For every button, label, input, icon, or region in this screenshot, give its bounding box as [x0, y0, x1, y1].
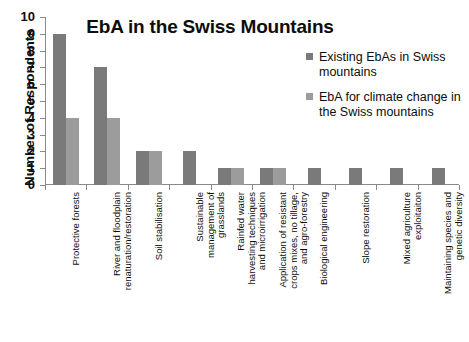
- y-axis-tick-label: 8: [28, 43, 35, 59]
- x-axis-category-label: Maintaining species and genetic diversit…: [443, 192, 464, 342]
- bar-series1: [218, 168, 231, 185]
- x-axis-category-label: Protective forests: [71, 192, 82, 342]
- bar-series1: [308, 168, 321, 185]
- y-axis-tick-label: 7: [28, 59, 35, 75]
- legend-label: Existing EbAs in Swiss mountains: [319, 50, 445, 79]
- bar-series1: [260, 168, 273, 185]
- bar-series1: [136, 151, 149, 185]
- x-axis-tick: [86, 185, 87, 190]
- legend-swatch-icon: [306, 93, 313, 100]
- x-axis-tick: [335, 185, 336, 190]
- x-axis-tick: [252, 185, 253, 190]
- bar-series1: [349, 168, 362, 185]
- x-axis-tick: [418, 185, 419, 190]
- bar-series2: [273, 168, 286, 185]
- x-axis-tick: [376, 185, 377, 190]
- x-axis-tick: [293, 185, 294, 190]
- bar-series1: [390, 168, 403, 185]
- chart-legend: Existing EbAs in Swiss mountainsEbA for …: [306, 50, 466, 130]
- x-axis-category-label: Mixed agriculture exploitaiton: [402, 192, 423, 342]
- bar-series1: [53, 34, 66, 185]
- y-axis-tick-label: 2: [28, 143, 35, 159]
- x-axis-tick: [211, 185, 212, 190]
- y-axis-tick-label: 5: [28, 93, 35, 109]
- y-axis-tick-label: 6: [28, 76, 35, 92]
- legend-entry: Existing EbAs in Swiss mountains: [306, 50, 466, 79]
- x-axis-ticks: [45, 185, 459, 191]
- y-axis-tick-label: 1: [28, 160, 35, 176]
- x-axis-tick: [459, 185, 460, 190]
- legend-entry: EbA for climate change in the Swiss moun…: [306, 90, 466, 119]
- bar-chart: EbA in the Swiss Mountains Number of Res…: [0, 0, 469, 342]
- legend-label: EbA for climate change in the Swiss moun…: [319, 90, 461, 119]
- y-axis-tick-label: 3: [28, 127, 35, 143]
- x-axis-labels: Protective forestsRiver and floodplain r…: [45, 192, 459, 342]
- x-axis-category-label: Application of resistant crops mixes, no…: [278, 192, 310, 342]
- legend-swatch-icon: [306, 53, 313, 60]
- bar-series1: [432, 168, 445, 185]
- bar-series2: [231, 168, 244, 185]
- y-axis-tick-label: 9: [28, 26, 35, 42]
- x-axis-category-label: River and floodplain renaturation/restor…: [112, 192, 133, 342]
- y-axis-tick-label: 4: [28, 110, 35, 126]
- y-axis-tick-label: 10: [21, 9, 35, 25]
- bar-series2: [107, 118, 120, 185]
- x-axis-tick: [128, 185, 129, 190]
- y-axis-tick-label: 0: [28, 177, 35, 193]
- bar-series1: [183, 151, 196, 185]
- x-axis-category-label: Slope restoration: [361, 192, 372, 342]
- x-axis-tick: [169, 185, 170, 190]
- x-axis-category-label: Rainfed water harvesting techniques and …: [236, 192, 268, 342]
- x-axis-tick: [45, 185, 46, 190]
- bar-series2: [66, 118, 79, 185]
- x-axis-category-label: Sustainable management of grasslands: [195, 192, 227, 342]
- bar-series1: [94, 67, 107, 185]
- x-axis-category-label: Soil stabilisation: [154, 192, 165, 342]
- bar-series2: [149, 151, 162, 185]
- x-axis-category-label: Biological engineering: [319, 192, 330, 342]
